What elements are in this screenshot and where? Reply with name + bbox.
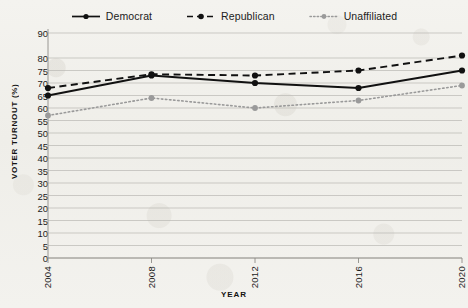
data-point-marker[interactable] xyxy=(459,67,465,73)
axis-lines xyxy=(48,29,462,258)
data-point-marker[interactable] xyxy=(148,71,154,77)
data-point-marker[interactable] xyxy=(459,83,465,89)
gridlines xyxy=(48,33,462,258)
series-line-unaffiliated xyxy=(48,86,462,116)
data-point-marker[interactable] xyxy=(252,105,258,111)
data-series xyxy=(45,52,465,118)
data-point-marker[interactable] xyxy=(45,113,51,119)
data-point-marker[interactable] xyxy=(45,92,51,98)
data-point-marker[interactable] xyxy=(459,52,465,58)
data-point-marker[interactable] xyxy=(149,95,155,101)
data-point-marker[interactable] xyxy=(356,98,362,104)
axis-ticks xyxy=(48,258,462,263)
data-point-marker[interactable] xyxy=(252,80,258,86)
data-point-marker[interactable] xyxy=(355,67,361,73)
data-point-marker[interactable] xyxy=(252,72,258,78)
data-point-marker[interactable] xyxy=(355,85,361,91)
plot-area xyxy=(0,0,468,308)
voter-turnout-line-chart: Democrat Republican Unaffiliated VOTER T… xyxy=(0,0,468,308)
data-point-marker[interactable] xyxy=(45,85,51,91)
